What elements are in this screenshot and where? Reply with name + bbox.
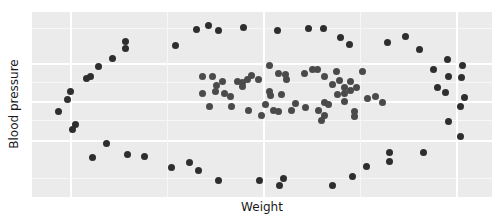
x-axis-label: Weight [32,200,492,214]
data-point-outer [386,149,393,156]
data-point-inner [234,78,241,85]
data-point-inner [364,95,371,102]
data-point-outer [305,25,312,32]
data-point-inner [359,68,366,75]
data-point-inner [329,81,336,88]
data-point-inner [283,76,290,83]
data-point-outer [337,34,344,41]
data-point-inner [212,88,219,95]
data-point-outer [215,27,222,34]
data-point-outer [402,33,409,40]
data-point-inner [258,112,265,119]
data-point-outer [430,66,437,73]
data-point-inner [351,113,358,120]
data-point-outer [67,88,74,95]
data-point-inner [267,92,274,99]
data-point-outer [256,177,263,184]
data-point-outer [172,42,179,49]
data-point-outer [461,94,468,101]
data-point-outer [103,140,110,147]
data-point-inner [341,98,348,105]
gridline-minor-h [32,120,492,121]
data-point-outer [457,133,464,140]
gridline-major-h [32,140,492,142]
gridline-major-v [70,12,72,197]
data-point-outer [416,46,423,53]
data-point-outer [276,182,283,189]
data-point-inner [255,76,262,83]
data-point-outer [386,158,393,165]
data-point-inner [275,108,282,115]
data-point-inner [336,77,343,84]
data-point-inner [227,93,234,100]
data-point-outer [346,41,353,48]
data-point-inner [347,78,354,85]
data-point-outer [186,159,193,166]
data-point-outer [205,22,212,29]
data-point-outer [434,84,441,91]
data-point-inner [353,84,360,91]
data-point-inner [302,104,309,111]
data-point-inner [206,103,213,110]
data-point-inner [301,70,308,77]
plot-panel [32,12,492,197]
data-point-inner [372,93,379,100]
data-point-outer [64,96,71,103]
data-point-inner [292,100,299,107]
data-point-outer [168,164,175,171]
data-point-outer [109,55,116,62]
data-point-outer [95,63,102,70]
data-point-inner [245,107,252,114]
data-point-outer [240,24,247,31]
data-point-outer [445,118,452,125]
data-point-inner [325,101,332,108]
data-point-outer [122,38,129,45]
data-point-outer [459,62,466,69]
data-point-outer [445,73,452,80]
data-point-outer [457,103,464,110]
data-point-outer [320,25,327,32]
data-point-outer [87,73,94,80]
data-point-outer [55,108,62,115]
data-point-outer [442,89,449,96]
data-point-inner [275,70,282,77]
data-point-inner [333,68,340,75]
data-point-inner [219,78,226,85]
gridline-minor-h [32,82,492,83]
data-point-inner [315,107,322,114]
data-point-outer [215,177,222,184]
data-point-inner [244,76,251,83]
data-point-inner [209,73,216,80]
data-point-inner [278,91,285,98]
gridline-minor-h [32,28,492,29]
data-point-inner [228,103,235,110]
data-point-outer [69,126,76,133]
data-point-inner [266,62,273,69]
data-point-inner [288,107,295,114]
data-point-inner [334,91,341,98]
data-point-outer [458,74,465,81]
data-point-inner [262,101,269,108]
data-point-outer [420,149,427,156]
data-point-inner [199,73,206,80]
data-point-outer [363,163,370,170]
data-point-outer [329,182,336,189]
y-axis-label: Blood pressure [7,59,21,149]
data-point-outer [141,153,148,160]
data-point-inner [318,117,325,124]
data-point-outer [124,151,131,158]
data-point-inner [321,73,328,80]
gridline-minor-v [360,12,361,197]
data-point-outer [280,175,287,182]
data-point-inner [314,66,321,73]
data-point-outer [349,173,356,180]
data-point-outer [193,26,200,33]
data-point-outer [384,39,391,46]
data-point-outer [274,27,281,34]
data-point-outer [89,154,96,161]
data-point-outer [444,56,451,63]
data-point-inner [379,99,386,106]
data-point-outer [122,45,129,52]
data-point-inner [199,90,206,97]
data-point-outer [195,167,202,174]
